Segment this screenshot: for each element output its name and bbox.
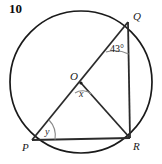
segment-QR [128,22,130,138]
geometry-figure: 10 Q R P O 43° x y [0,0,162,164]
point-label-R: R [133,141,140,152]
point-label-O: O [70,71,78,82]
question-number: 10 [9,2,22,16]
angle-label-43-degrees: 43° [110,44,124,54]
angle-label-x: x [79,89,83,99]
point-label-P: P [22,142,29,153]
point-label-Q: Q [133,11,141,22]
segment-PR [32,138,130,140]
angle-arc-P [49,120,55,140]
segment-PQ-diameter [32,22,128,140]
center-point-dot [79,81,82,84]
segment-OR-radius [81,83,130,138]
angle-label-y: y [45,127,49,137]
